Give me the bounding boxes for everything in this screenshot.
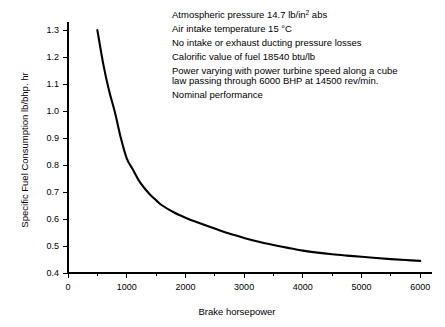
annotation-line: Air intake temperature 15 °C bbox=[172, 23, 292, 34]
x-tick-label: 5000 bbox=[352, 282, 372, 292]
y-axis-title: Specific Fuel Consumption lb/bhp. hr bbox=[19, 72, 30, 227]
annotation-block: Atmospheric pressure 14.7 lb/in2 absAir … bbox=[172, 9, 398, 101]
y-tick-label: 0.8 bbox=[46, 160, 59, 170]
x-tick-label: 2000 bbox=[175, 282, 195, 292]
x-axis-ticks: 0100020003000400050006000 bbox=[65, 273, 430, 292]
y-tick-label: 0.7 bbox=[46, 187, 59, 197]
annotation-line: Nominal performance bbox=[172, 89, 263, 100]
y-axis-ticks: 0.40.50.60.70.80.91.01.11.21.3 bbox=[46, 25, 68, 278]
annotation-line: Atmospheric pressure 14.7 lb/in2 abs bbox=[172, 9, 327, 21]
x-tick-label: 6000 bbox=[410, 282, 430, 292]
y-tick-label: 0.9 bbox=[46, 133, 59, 143]
y-tick-label: 0.4 bbox=[46, 268, 59, 278]
annotation-line: law passing through 6000 BHP at 14500 re… bbox=[172, 75, 378, 86]
annotation-line: No intake or exhaust ducting pressure lo… bbox=[172, 37, 362, 48]
y-tick-label: 1.0 bbox=[46, 106, 59, 116]
x-tick-label: 1000 bbox=[117, 282, 137, 292]
y-tick-label: 1.2 bbox=[46, 52, 59, 62]
x-tick-label: 3000 bbox=[234, 282, 254, 292]
x-tick-label: 0 bbox=[65, 282, 70, 292]
x-axis-title: Brake horsepower bbox=[198, 306, 275, 317]
y-tick-label: 1.3 bbox=[46, 25, 59, 35]
y-tick-label: 0.6 bbox=[46, 214, 59, 224]
chart-canvas: 0100020003000400050006000 0.40.50.60.70.… bbox=[0, 0, 445, 327]
sfc-vs-bhp-chart: 0100020003000400050006000 0.40.50.60.70.… bbox=[0, 0, 445, 327]
annotation-line: Calorific value of fuel 18540 btu/lb bbox=[172, 51, 315, 62]
y-tick-label: 1.1 bbox=[46, 79, 59, 89]
y-tick-label: 0.5 bbox=[46, 241, 59, 251]
x-tick-label: 4000 bbox=[293, 282, 313, 292]
